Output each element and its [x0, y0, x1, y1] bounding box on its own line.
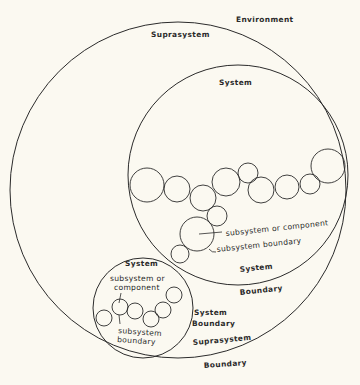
- subsystem-boundary-label-small-2: boundary: [117, 335, 156, 347]
- subsystem-or-component-label-small-2: component: [114, 283, 160, 292]
- leader-subsystem-component-small: [119, 293, 121, 303]
- suprasystem-label: Suprasystem: [151, 30, 210, 39]
- suprasystem-boundary-label-2: Boundary: [204, 358, 248, 370]
- subsystem-circle: [130, 168, 164, 202]
- subsystem-or-component-label-large: subsystem or component: [225, 218, 329, 238]
- system-boundary-label-small-1: System: [194, 308, 227, 317]
- subsystem-circle: [300, 174, 320, 194]
- system-boundary-label-large-2: Boundary: [239, 284, 283, 297]
- subsystem-circle: [96, 310, 112, 326]
- subsystem-circle: [166, 287, 182, 303]
- subsystem-circle: [127, 303, 143, 319]
- subsystem-boundary-label-large: subsystem boundary: [216, 236, 302, 254]
- systems-hierarchy-diagram: Environment Suprasystem System System su…: [0, 0, 360, 385]
- subsystem-circle: [275, 175, 299, 199]
- subsystem-circle: [155, 302, 171, 318]
- system-boundary-label-large-1: System: [239, 262, 273, 274]
- subsystem-circle: [164, 176, 190, 202]
- subsystem-circle: [248, 177, 274, 203]
- leader-subsystem-boundary-large: [209, 249, 216, 252]
- subsystem-circle: [171, 245, 189, 263]
- environment-label: Environment: [236, 15, 294, 24]
- system-label-small: System: [125, 259, 158, 268]
- subsystem-circle: [143, 311, 159, 327]
- leader-subsystem-component-large: [199, 232, 222, 234]
- subsystem-circle: [180, 217, 214, 251]
- subsystem-or-component-label-small-1: subsystem or: [110, 274, 165, 283]
- subsystem-circle: [112, 299, 128, 315]
- subsystem-circle: [238, 163, 258, 183]
- subsystem-circle: [311, 149, 345, 183]
- leader-subsystem-boundary-small: [119, 315, 120, 324]
- subsystem-circles-small: [96, 287, 182, 327]
- system-label-large: System: [219, 78, 252, 87]
- suprasystem-boundary-circle: [10, 22, 346, 358]
- subsystem-circle: [212, 168, 240, 196]
- system-boundary-label-small-2: Boundary: [192, 319, 235, 328]
